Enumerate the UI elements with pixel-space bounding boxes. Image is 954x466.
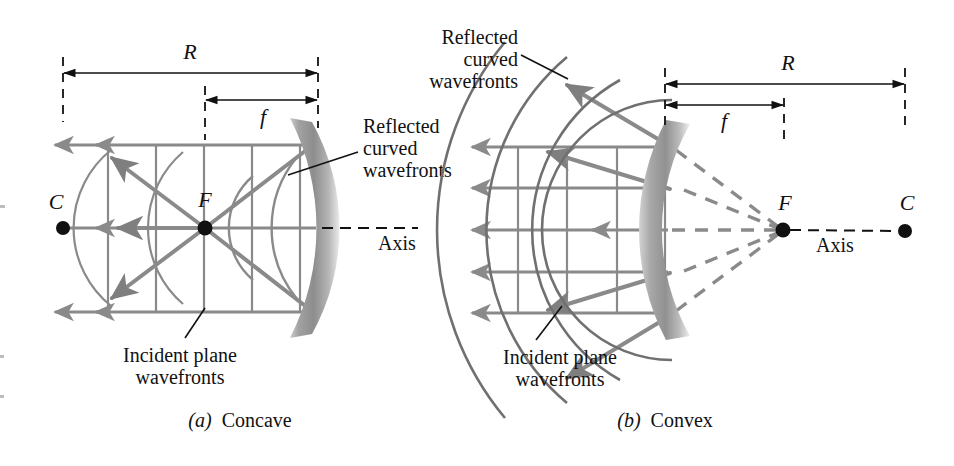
- axis-label-a: Axis: [378, 232, 416, 254]
- caption-a-letter: (a): [188, 409, 212, 432]
- label-reflected-a-line3: wavefronts: [363, 159, 452, 181]
- center-of-curvature-point-b: [898, 224, 912, 238]
- center-of-curvature-point-a: [56, 221, 70, 235]
- label-F-b: F: [777, 190, 792, 215]
- label-incident-a-line2: wavefronts: [136, 366, 225, 388]
- label-incident-b-line2: wavefronts: [516, 368, 605, 390]
- label-reflected-a-line2: curved: [363, 137, 417, 159]
- caption-b: (b) Convex: [617, 409, 713, 432]
- label-C-b: C: [900, 190, 915, 215]
- label-incident-a-line1: Incident plane: [123, 344, 237, 367]
- label-reflected-a-line1: Reflected: [363, 115, 440, 137]
- caption-a-word: Concave: [222, 409, 292, 431]
- caption-b-letter: (b): [617, 409, 641, 432]
- label-reflected-b-line1: Reflected: [441, 26, 518, 48]
- label-reflected-b-line3: wavefronts: [429, 70, 518, 92]
- focal-point-b: [776, 223, 791, 238]
- caption-a: (a) Concave: [188, 409, 291, 432]
- figure-canvas: C F R f Axis Reflected curved wavefronts…: [0, 0, 954, 466]
- focal-point-a: [198, 221, 213, 236]
- label-R-b: R: [780, 50, 795, 75]
- label-incident-b-line1: Incident plane: [503, 346, 617, 369]
- label-reflected-b-line2: curved: [464, 48, 518, 70]
- axis-label-b: Axis: [816, 234, 854, 256]
- caption-b-word: Convex: [651, 409, 713, 431]
- optics-figure: C F R f Axis Reflected curved wavefronts…: [0, 0, 954, 466]
- label-F-a: F: [197, 187, 212, 212]
- label-R-a: R: [182, 39, 197, 64]
- label-C-a: C: [49, 189, 64, 214]
